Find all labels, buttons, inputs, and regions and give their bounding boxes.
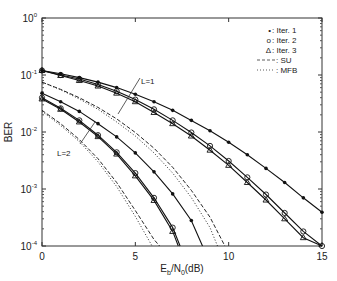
marker-star [115,135,119,139]
x-axis-label: Eb/N0(dB) [160,263,203,276]
plot-curves [39,67,325,248]
y-axis-label: BER [3,122,14,143]
marker-star [134,151,138,155]
y-tick-label: 10-3 [21,183,38,195]
marker-star [227,140,231,144]
legend-label: : SU [276,56,292,65]
curve-l-2-iter-2 [42,98,180,246]
y-tick-label: 10-4 [21,240,38,252]
legend-label: : Iter. 3 [272,46,297,55]
x-tick-label: 10 [223,251,235,262]
curve-l-1-iter-1 [42,71,322,213]
y-tick-label: 100 [23,12,38,24]
x-tick-label: 15 [316,251,328,262]
annotation-l1: L=1 [141,77,155,86]
marker-star [96,122,100,126]
curve-l-2-mfb [42,111,152,246]
legend-label: : MFB [276,66,297,75]
marker-star [283,181,287,185]
marker-star [302,196,306,200]
legend-label: : Iter. 1 [272,26,297,35]
annotation-pointer-l1 [118,78,140,114]
curve-l-2-iter-1 [42,93,203,246]
legend-label: : Iter. 2 [272,36,297,45]
marker-star [171,109,175,113]
legend: •: Iter. 1o: Iter. 2Δ: Iter. 3: SU: MFB [257,26,297,75]
curve-l-1-iter-2 [42,71,322,247]
marker-star [152,100,156,104]
curve-l-2-iter-3 [42,99,178,246]
marker-star [59,100,63,104]
legend-marker: o [267,36,272,45]
legend-marker: • [268,26,271,35]
marker-star [264,167,268,171]
marker-star [78,110,82,114]
marker-star [246,153,250,157]
x-tick-label: 5 [133,251,139,262]
curve-l-2-su [42,110,160,246]
legend-marker: Δ [266,46,272,55]
marker-star [190,219,194,223]
x-tick-label: 0 [39,251,45,262]
ber-chart: 10010-110-210-310-4051015Eb/N0(dB)BER •:… [0,0,337,281]
marker-star [171,192,175,196]
marker-star [40,91,44,95]
curve-l-1-iter-3 [42,71,322,247]
annotation-l2: L=2 [57,149,71,158]
marker-star [208,129,212,133]
marker-star [152,170,156,174]
marker-star [320,211,324,215]
marker-star [190,119,194,123]
y-tick-label: 10-1 [21,69,38,81]
marker-star [134,92,138,96]
y-tick-label: 10-2 [21,126,38,138]
